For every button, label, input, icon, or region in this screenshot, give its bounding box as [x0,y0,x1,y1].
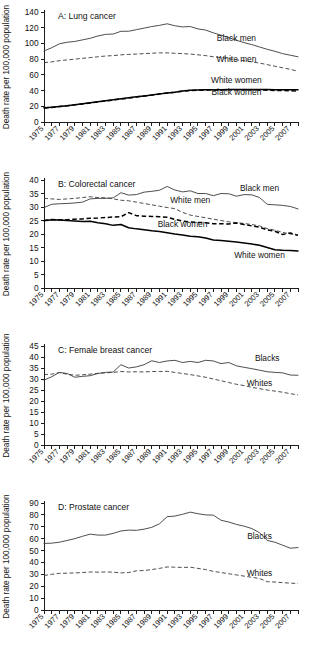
x-tick-label: 1977 [42,612,60,630]
y-tick-label: 100 [25,38,39,48]
series-label: White women [211,75,262,85]
y-tick-label: 35 [29,363,39,373]
x-tick-label: 1985 [104,124,122,142]
y-tick-label: 50 [29,546,39,556]
series-label: Black women [158,219,208,229]
x-tick-label: 1979 [58,612,76,630]
x-tick-label: 1975 [27,447,45,465]
y-tick-label: 90 [29,498,39,508]
x-tick-label: 1979 [58,290,76,308]
x-tick-label: 1989 [135,124,153,142]
x-tick-label: 1997 [196,290,214,308]
y-tick-label: 140 [25,7,39,17]
x-tick-label: 1981 [73,447,91,465]
x-tick-label: 1993 [166,124,184,142]
y-tick-label: 10 [29,418,39,428]
y-tick-label: 40 [29,352,39,362]
x-tick-label: 1995 [181,290,199,308]
series-line [44,24,298,57]
chart-panel-c: 0510152025303540451975197719791981198319… [0,334,310,491]
y-tick-label: 40 [29,557,39,567]
panel-title: C: Female breast cancer [58,345,152,355]
series-label: Blacks [247,531,272,541]
x-tick-label: 1985 [104,447,122,465]
series-line [44,53,298,71]
y-tick-label: 80 [29,54,39,64]
x-tick-label: 1981 [73,290,91,308]
x-tick-label: 1979 [58,124,76,142]
x-tick-label: 1981 [73,124,91,142]
y-tick-label: 60 [29,534,39,544]
x-tick-label: 2003 [243,447,261,465]
y-tick-label: 70 [29,522,39,532]
y-axis-title: Death rate per 100,000 population [2,171,11,296]
x-tick-label: 2007 [273,447,291,465]
x-tick-label: 1985 [104,290,122,308]
x-tick-label: 1991 [150,447,168,465]
x-tick-label: 2007 [273,124,291,142]
x-tick-label: 2007 [273,290,291,308]
chart-panel-d: 0102030405060708090197519771979198119831… [0,491,310,656]
y-tick-label: 40 [29,175,39,185]
x-tick-label: 1983 [89,612,107,630]
y-tick-label: 60 [29,70,39,80]
y-tick-label: 20 [29,581,39,591]
x-tick-label: 1999 [212,124,230,142]
series-label: Black men [240,183,279,193]
series-label: Blacks [255,353,280,363]
x-tick-label: 1975 [27,290,45,308]
x-tick-label: 1983 [89,290,107,308]
y-tick-label: 30 [29,374,39,384]
x-tick-label: 1987 [119,447,137,465]
x-tick-label: 1999 [212,612,230,630]
x-tick-label: 2005 [258,290,276,308]
x-tick-label: 1995 [181,447,199,465]
x-tick-label: 1989 [135,447,153,465]
panel-title: A: Lung cancer [58,11,116,21]
y-axis-title: Death rate per 100,000 population [2,334,11,458]
x-tick-label: 1997 [196,612,214,630]
x-tick-label: 2007 [273,612,291,630]
series-label: Black women [212,87,262,97]
series-label: Black men [217,33,256,43]
y-axis-title: Death rate per 100,000 population [2,494,11,619]
x-tick-label: 1975 [27,124,45,142]
y-tick-label: 120 [25,23,39,33]
x-tick-label: 1989 [135,612,153,630]
series-label: White women [234,250,285,260]
y-tick-label: 15 [29,407,39,417]
y-tick-label: 30 [29,202,39,212]
x-tick-label: 1989 [135,290,153,308]
x-tick-label: 1993 [166,290,184,308]
x-tick-label: 1977 [42,124,60,142]
x-tick-label: 2003 [243,612,261,630]
x-tick-label: 1987 [119,124,137,142]
chart-panel-b: 0510152025303540197519771979198119831985… [0,168,310,334]
x-tick-label: 1995 [181,124,199,142]
y-tick-label: 80 [29,510,39,520]
x-tick-label: 2005 [258,447,276,465]
y-tick-label: 20 [29,101,39,111]
x-tick-label: 2001 [227,612,245,630]
x-tick-label: 1997 [196,447,214,465]
x-tick-label: 1977 [42,290,60,308]
x-tick-label: 1991 [150,290,168,308]
cancer-death-rate-figure: 0204060801001201401975197719791981198319… [0,0,310,656]
x-tick-label: 2003 [243,290,261,308]
x-tick-label: 1987 [119,290,137,308]
series-label: White men [216,54,256,64]
x-tick-label: 2005 [258,612,276,630]
series-label: Whites [247,378,273,388]
y-tick-label: 25 [29,216,39,226]
series-label: White men [170,195,210,205]
x-tick-label: 1993 [166,612,184,630]
x-tick-label: 1999 [212,290,230,308]
panel-title: B: Colorectal cancer [58,179,136,189]
y-tick-label: 35 [29,189,39,199]
y-tick-label: 5 [34,429,39,439]
chart-panel-a: 0204060801001201401975197719791981198319… [0,0,310,168]
panel-title: D: Prostate cancer [58,502,129,512]
y-axis-title: Death rate per 100,000 population [2,4,11,129]
x-tick-label: 1995 [181,612,199,630]
x-tick-label: 2003 [243,124,261,142]
